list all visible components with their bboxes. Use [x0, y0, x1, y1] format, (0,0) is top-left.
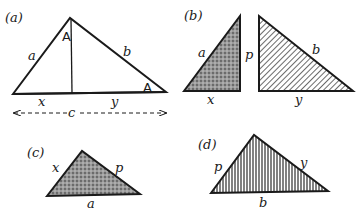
- panel-d: (d) p y b: [198, 135, 328, 210]
- c-side-p-label: p: [115, 160, 124, 175]
- triangle-b-left-shaded: [184, 16, 240, 91]
- side-a-label: a: [28, 48, 36, 63]
- panel-b: (b) a p x b y: [184, 8, 353, 107]
- b-height-label: p: [245, 47, 254, 62]
- d-side-p-label: p: [214, 159, 223, 174]
- d-side-y-label: y: [299, 155, 308, 170]
- panel-b-tag: (b): [184, 8, 202, 23]
- triangle-b-right-hatched: [259, 16, 353, 91]
- base-y-label: y: [110, 94, 119, 109]
- altitude-line: [71, 19, 72, 93]
- similar-triangles-diagram: (a) A A a b x y c (b) a p x b y (c) x p …: [0, 0, 362, 217]
- panel-a: (a) A A a b x y c: [5, 10, 166, 120]
- panel-d-tag: (d): [198, 137, 216, 152]
- b-left-base-label: x: [207, 92, 215, 107]
- base-x-label: x: [38, 94, 46, 109]
- panel-c: (c) x p a: [27, 145, 140, 211]
- triangle-d-hatched: [211, 135, 328, 193]
- b-right-base-label: y: [294, 92, 303, 107]
- panel-a-tag: (a): [5, 10, 23, 25]
- b-left-hyp-label: a: [198, 45, 206, 60]
- side-b-label: b: [123, 44, 131, 59]
- angle-top-label: A: [62, 29, 71, 44]
- angle-right-label: A: [143, 80, 152, 95]
- length-c-label: c: [68, 105, 76, 120]
- panel-c-tag: (c): [27, 145, 44, 160]
- d-base-b-label: b: [259, 195, 267, 210]
- b-right-hyp-label: b: [312, 42, 320, 57]
- c-base-a-label: a: [87, 196, 95, 211]
- c-side-x-label: x: [52, 160, 60, 175]
- triangle-c-shaded: [47, 151, 140, 196]
